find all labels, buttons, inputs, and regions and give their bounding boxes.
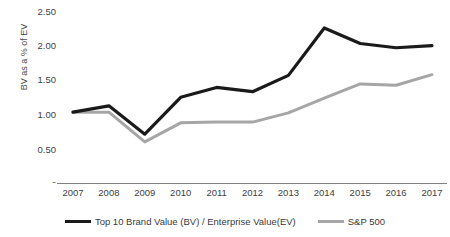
series-line-sp500 — [73, 75, 432, 142]
legend-item-brand-value: Top 10 Brand Value (BV) / Enterprise Val… — [65, 216, 296, 227]
x-tick-label: 2011 — [197, 187, 237, 199]
line-chart: BV as a % of EV 2.50 2.00 1.50 1.00 0.50… — [0, 0, 450, 237]
x-tick-label: 2007 — [53, 187, 93, 199]
x-tick-label: 2009 — [125, 187, 165, 199]
legend-swatch-gray — [318, 220, 344, 223]
x-tick-label: 2012 — [233, 187, 273, 199]
x-tick-label: 2008 — [89, 187, 129, 199]
x-tick-label: 2015 — [340, 187, 380, 199]
legend-item-sp500: S&P 500 — [318, 216, 385, 227]
x-tick-label: 2013 — [268, 187, 308, 199]
series-canvas — [60, 6, 444, 184]
series-line-brand-value — [73, 28, 432, 134]
x-tick-label: 2016 — [376, 187, 416, 199]
legend-label: Top 10 Brand Value (BV) / Enterprise Val… — [95, 216, 296, 227]
legend-label: S&P 500 — [348, 216, 385, 227]
y-tick-label: 2.50 — [24, 7, 56, 17]
legend-swatch-black — [65, 220, 91, 223]
x-tick-label: 2017 — [412, 187, 450, 199]
x-axis-line — [57, 183, 447, 184]
y-tick-label: 1.50 — [24, 75, 56, 85]
y-tick-label: 0.50 — [24, 145, 56, 155]
x-tick-label: 2014 — [304, 187, 344, 199]
y-axis-tick-labels: 2.50 2.00 1.50 1.00 0.50 - — [24, 0, 56, 190]
plot-area — [60, 6, 444, 184]
x-tick-label: 2010 — [161, 187, 201, 199]
chart-legend: Top 10 Brand Value (BV) / Enterprise Val… — [0, 212, 450, 230]
x-axis-tick-labels: 2007200820092010201120122013201420152016… — [57, 187, 447, 203]
y-tick-label: 2.00 — [24, 41, 56, 51]
y-tick-label: 1.00 — [24, 110, 56, 120]
y-tick-label-zero: - — [24, 176, 56, 186]
